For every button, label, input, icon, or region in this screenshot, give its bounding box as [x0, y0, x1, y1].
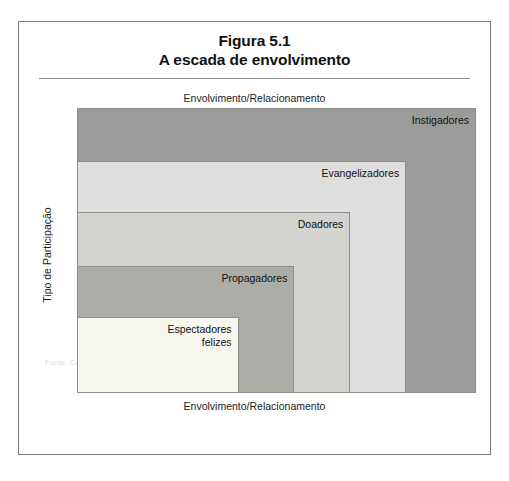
- bottom-axis-caption: Envolvimento/Relacionamento: [19, 400, 490, 412]
- ladder-step-label: Instigadores: [412, 114, 469, 127]
- ladder-step-label: Doadores: [298, 218, 344, 231]
- ladder-step-escutar: Espectadores felizes: [77, 317, 239, 393]
- figure-title-number: Figura 5.1: [19, 31, 490, 50]
- y-axis-caption: Tipo de Participação: [41, 185, 53, 325]
- figure-title: Figura 5.1 A escada de envolvimento: [19, 31, 490, 69]
- top-axis-caption: Envolvimento/Relacionamento: [19, 92, 490, 104]
- ladder-step-label: Evangelizadores: [322, 167, 400, 180]
- engagement-ladder-plot: InstigadoresEvangelizadoresDoadoresPropa…: [77, 108, 476, 393]
- figure-title-text: A escada de envolvimento: [19, 50, 490, 69]
- title-divider: [39, 78, 470, 79]
- figure-frame: Figura 5.1 A escada de envolvimento Envo…: [18, 21, 491, 455]
- ladder-step-label: Espectadores felizes: [167, 323, 231, 349]
- ladder-step-label: Propagadores: [221, 272, 287, 285]
